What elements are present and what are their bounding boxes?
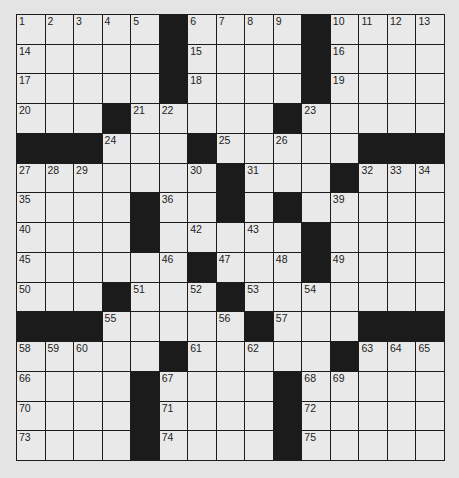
grid-cell[interactable] [74, 431, 102, 460]
grid-cell[interactable]: 13 [416, 15, 444, 44]
grid-cell[interactable] [46, 223, 74, 252]
grid-cell[interactable]: 19 [331, 74, 359, 103]
grid-cell[interactable] [302, 312, 330, 341]
grid-cell[interactable] [359, 253, 387, 282]
grid-cell[interactable]: 2 [46, 15, 74, 44]
grid-cell[interactable] [245, 193, 273, 222]
grid-cell[interactable]: 11 [359, 15, 387, 44]
grid-cell[interactable] [74, 402, 102, 431]
grid-cell[interactable]: 15 [188, 45, 216, 74]
grid-cell[interactable] [160, 312, 188, 341]
grid-cell[interactable] [331, 283, 359, 312]
grid-cell[interactable] [388, 223, 416, 252]
grid-cell[interactable] [103, 342, 131, 371]
grid-cell[interactable]: 9 [274, 15, 302, 44]
grid-cell[interactable] [302, 164, 330, 193]
grid-cell[interactable]: 36 [160, 193, 188, 222]
grid-cell[interactable]: 33 [388, 164, 416, 193]
grid-cell[interactable] [245, 372, 273, 401]
grid-cell[interactable] [416, 193, 444, 222]
grid-cell[interactable] [131, 312, 159, 341]
grid-cell[interactable] [274, 74, 302, 103]
grid-cell[interactable] [103, 372, 131, 401]
grid-cell[interactable] [74, 253, 102, 282]
grid-cell[interactable] [274, 223, 302, 252]
grid-cell[interactable]: 32 [359, 164, 387, 193]
grid-cell[interactable] [388, 283, 416, 312]
grid-cell[interactable] [388, 253, 416, 282]
grid-cell[interactable]: 65 [416, 342, 444, 371]
grid-cell[interactable]: 40 [17, 223, 45, 252]
grid-cell[interactable] [416, 283, 444, 312]
grid-cell[interactable] [274, 45, 302, 74]
grid-cell[interactable] [217, 431, 245, 460]
grid-cell[interactable] [74, 74, 102, 103]
grid-cell[interactable] [74, 223, 102, 252]
grid-cell[interactable] [160, 164, 188, 193]
grid-cell[interactable] [302, 134, 330, 163]
grid-cell[interactable] [217, 342, 245, 371]
grid-cell[interactable] [388, 372, 416, 401]
grid-cell[interactable]: 68 [302, 372, 330, 401]
grid-cell[interactable] [217, 104, 245, 133]
grid-cell[interactable]: 24 [103, 134, 131, 163]
grid-cell[interactable] [388, 402, 416, 431]
grid-cell[interactable] [416, 45, 444, 74]
grid-cell[interactable] [416, 253, 444, 282]
grid-cell[interactable] [359, 223, 387, 252]
grid-cell[interactable] [245, 253, 273, 282]
grid-cell[interactable] [245, 74, 273, 103]
grid-cell[interactable] [46, 431, 74, 460]
grid-cell[interactable]: 22 [160, 104, 188, 133]
grid-cell[interactable]: 61 [188, 342, 216, 371]
grid-cell[interactable] [416, 223, 444, 252]
grid-cell[interactable]: 29 [74, 164, 102, 193]
grid-cell[interactable] [388, 193, 416, 222]
grid-cell[interactable]: 75 [302, 431, 330, 460]
grid-cell[interactable]: 55 [103, 312, 131, 341]
grid-cell[interactable] [217, 223, 245, 252]
grid-cell[interactable] [46, 402, 74, 431]
grid-cell[interactable]: 5 [131, 15, 159, 44]
grid-cell[interactable] [416, 402, 444, 431]
grid-cell[interactable] [131, 74, 159, 103]
grid-cell[interactable]: 59 [46, 342, 74, 371]
grid-cell[interactable]: 67 [160, 372, 188, 401]
grid-cell[interactable] [331, 431, 359, 460]
grid-cell[interactable] [359, 74, 387, 103]
grid-cell[interactable]: 27 [17, 164, 45, 193]
grid-cell[interactable] [46, 253, 74, 282]
grid-cell[interactable] [131, 164, 159, 193]
grid-cell[interactable] [74, 372, 102, 401]
grid-cell[interactable] [416, 74, 444, 103]
grid-cell[interactable] [103, 431, 131, 460]
grid-cell[interactable] [359, 283, 387, 312]
grid-cell[interactable] [331, 104, 359, 133]
grid-cell[interactable]: 25 [217, 134, 245, 163]
grid-cell[interactable] [359, 372, 387, 401]
grid-cell[interactable] [103, 223, 131, 252]
grid-cell[interactable] [74, 45, 102, 74]
grid-cell[interactable] [274, 342, 302, 371]
grid-cell[interactable] [103, 164, 131, 193]
grid-cell[interactable]: 23 [302, 104, 330, 133]
grid-cell[interactable]: 28 [46, 164, 74, 193]
grid-cell[interactable]: 60 [74, 342, 102, 371]
grid-cell[interactable]: 7 [217, 15, 245, 44]
grid-cell[interactable]: 14 [17, 45, 45, 74]
grid-cell[interactable] [274, 164, 302, 193]
grid-cell[interactable]: 64 [388, 342, 416, 371]
grid-cell[interactable] [131, 134, 159, 163]
grid-cell[interactable] [188, 312, 216, 341]
grid-cell[interactable]: 18 [188, 74, 216, 103]
grid-cell[interactable]: 45 [17, 253, 45, 282]
grid-cell[interactable] [217, 372, 245, 401]
grid-cell[interactable]: 6 [188, 15, 216, 44]
grid-cell[interactable] [331, 223, 359, 252]
grid-cell[interactable]: 49 [331, 253, 359, 282]
grid-cell[interactable] [245, 402, 273, 431]
grid-cell[interactable] [331, 134, 359, 163]
grid-cell[interactable] [416, 372, 444, 401]
grid-cell[interactable] [245, 45, 273, 74]
grid-cell[interactable] [302, 193, 330, 222]
